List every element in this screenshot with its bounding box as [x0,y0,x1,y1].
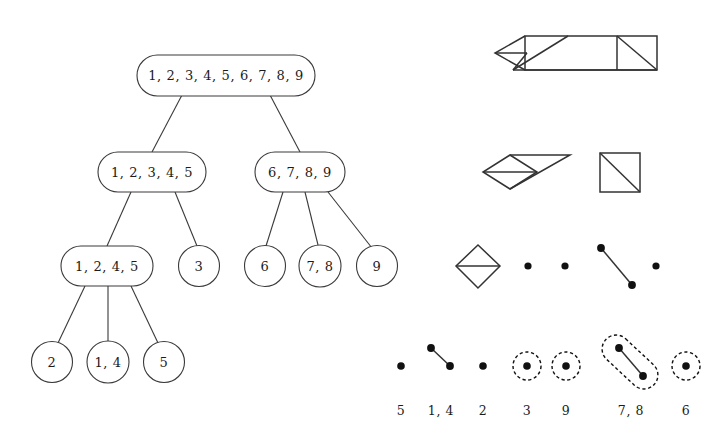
tree-node-6789-label: 6, 7, 8, 9 [268,165,332,180]
bottom-label-2: 2 [479,403,488,418]
bottom-label-3: 3 [523,403,532,418]
tree-node-14[interactable]: 1, 4 [87,341,129,383]
tree-node-3-label: 3 [195,259,204,274]
tree-edge-1245-2 [58,286,85,343]
row3-vertex-3 [523,362,531,370]
tree-node-78-label: 7, 8 [306,259,333,274]
tree-node-9-label: 9 [373,259,382,274]
tree-node-78[interactable]: 7, 8 [299,245,341,287]
tree-node-3[interactable]: 3 [179,246,220,287]
row3-vertex-4 [446,362,454,370]
tree-edge-6789-9 [328,192,372,248]
tree-node-6[interactable]: 6 [245,246,286,287]
tree-node-9[interactable]: 9 [357,246,398,287]
complex-row-full [495,36,657,70]
tree-node-1245-label: 1, 2, 4, 5 [75,259,139,274]
tree-node-6789[interactable]: 6, 7, 8, 9 [255,152,345,192]
tree-edge-root-6789 [270,95,300,152]
row3-vertex-5 [397,362,405,370]
bottom-label-5: 5 [397,403,406,418]
complex-row-two [483,153,640,192]
complex-row-four [456,244,660,289]
row3-vertex-8 [639,372,647,380]
tree-node-1245[interactable]: 1, 2, 4, 5 [61,246,153,286]
tree-edge-6789-78 [305,192,318,245]
row2-edge-segment [601,248,632,285]
row1-square-diagonal [600,153,640,192]
row3-vertex-2 [479,362,487,370]
tree-nodes: 1, 2, 3, 4, 5, 6, 7, 8, 9 1, 2, 3, 4, 5 … [32,55,398,383]
bottom-label-6: 6 [682,403,691,418]
row2-edge-endpoint-top [597,244,605,252]
tree-node-2[interactable]: 2 [32,342,73,383]
row3-vertex-9 [562,362,570,370]
bottom-label-78: 7, 8 [618,403,644,418]
row3-edge-14 [431,348,450,366]
tree-edge-1245-5 [131,286,158,343]
tree-edge-12345-1245 [107,192,131,246]
tree-node-12345[interactable]: 1, 2, 3, 4, 5 [98,152,206,192]
tree-node-14-label: 1, 4 [94,355,121,370]
figure-canvas: 1, 2, 3, 4, 5, 6, 7, 8, 9 1, 2, 3, 4, 5 … [0,0,727,437]
row2-vertex-c [652,262,659,269]
merge-tree-figure: 1, 2, 3, 4, 5, 6, 7, 8, 9 1, 2, 3, 4, 5 … [0,0,727,437]
tree-node-2-label: 2 [48,355,57,370]
row3-hull-78 [596,329,663,394]
row3-vertex-7 [615,344,623,352]
tree-edges [58,95,372,343]
tree-node-12345-label: 1, 2, 3, 4, 5 [111,165,193,180]
tree-node-root-label: 1, 2, 3, 4, 5, 6, 7, 8, 9 [148,68,304,83]
row2-edge-endpoint-bottom [628,281,636,289]
bottom-label-row: 5 1, 4 2 3 9 7, 8 6 [397,403,691,418]
tree-edge-6789-6 [266,192,283,246]
tree-node-5-label: 5 [160,355,169,370]
tree-node-root[interactable]: 1, 2, 3, 4, 5, 6, 7, 8, 9 [137,55,315,96]
row3-hull-78-group [596,329,663,394]
row0-right-square-diagonal [617,36,657,70]
row3-vertex-1 [427,344,435,352]
row3-vertex-6 [682,362,690,370]
tree-node-5[interactable]: 5 [144,342,185,383]
bottom-label-14: 1, 4 [428,403,454,418]
complex-row-atoms [397,329,700,394]
bottom-label-9: 9 [562,403,571,418]
row2-vertex-b [561,262,568,269]
tree-node-6-label: 6 [261,259,270,274]
row2-vertex-a [524,262,531,269]
tree-edge-12345-3 [175,192,197,246]
tree-edge-root-12345 [152,95,182,152]
